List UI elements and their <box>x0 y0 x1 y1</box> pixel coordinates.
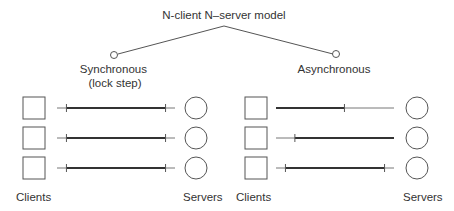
client-box <box>23 157 45 179</box>
clients-label-synchronous: Clients <box>16 191 51 203</box>
client-box <box>245 127 267 149</box>
server-circle <box>185 127 207 149</box>
servers-label-synchronous: Servers <box>183 191 223 203</box>
diagram-title: N-client N–server model <box>162 9 285 21</box>
server-circle <box>185 97 207 119</box>
tree-edge-synchronous <box>118 26 224 54</box>
client-box <box>23 127 45 149</box>
label-synchronous: Synchronous (lock step) <box>80 63 150 89</box>
server-circle <box>406 97 428 119</box>
label-synchronous-line1: Synchronous <box>80 63 147 75</box>
client-box <box>23 97 45 119</box>
panel-asynchronous <box>245 97 428 179</box>
client-box <box>245 97 267 119</box>
label-synchronous-line2: (lock step) <box>88 77 141 89</box>
servers-label-asynchronous: Servers <box>403 191 443 203</box>
server-circle <box>185 157 207 179</box>
clients-label-asynchronous: Clients <box>236 191 271 203</box>
panel-synchronous <box>23 97 207 179</box>
server-circle <box>406 157 428 179</box>
node-asynchronous <box>333 51 340 58</box>
client-box <box>245 157 267 179</box>
n-client-n-server-diagram: N-client N–server model Synchronous (loc… <box>0 0 454 211</box>
node-synchronous <box>111 52 118 59</box>
server-circle <box>406 127 428 149</box>
label-asynchronous: Asynchronous <box>298 63 371 75</box>
tree-edge-asynchronous <box>224 26 333 54</box>
